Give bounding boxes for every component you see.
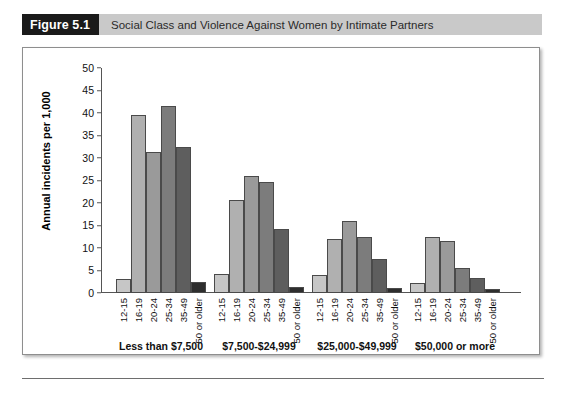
y-axis-title-text: Annual incidents per 1,000: [40, 91, 52, 230]
category-label-text: 16-19: [134, 298, 144, 322]
group-label: Less than $7,500: [119, 340, 203, 352]
bar[interactable]: [161, 106, 176, 293]
y-axis-tick-label: 50: [74, 63, 94, 74]
y-axis-tick: 40: [74, 108, 101, 119]
bar[interactable]: [116, 279, 131, 293]
bottom-rule: [22, 378, 544, 379]
bar[interactable]: [410, 283, 425, 293]
y-axis-tick-mark: [97, 113, 101, 114]
category-label-text: 20-24: [345, 298, 355, 322]
bar[interactable]: [259, 182, 274, 293]
category-label-text: 12-15: [119, 298, 129, 322]
y-axis-tick: 0: [74, 288, 101, 299]
category-label-text: 50 or older: [292, 298, 302, 343]
bar[interactable]: [455, 268, 470, 293]
bar[interactable]: [191, 282, 206, 293]
y-axis-tick-mark: [97, 203, 101, 204]
y-axis-tick: 50: [74, 63, 101, 74]
y-axis-tick-label: 45: [74, 85, 94, 96]
y-axis-tick-label: 0: [74, 288, 94, 299]
bar[interactable]: [214, 274, 229, 293]
bar[interactable]: [387, 288, 402, 293]
y-axis-tick-label: 30: [74, 153, 94, 164]
bar[interactable]: [146, 152, 161, 293]
y-axis-tick-label: 15: [74, 220, 94, 231]
bar[interactable]: [357, 237, 372, 293]
y-axis-tick-label: 35: [74, 130, 94, 141]
bar[interactable]: [342, 221, 357, 293]
y-axis-tick-label: 25: [74, 175, 94, 186]
bar[interactable]: [244, 176, 259, 293]
category-label-text: 25-34: [262, 298, 272, 322]
y-axis-tick: 35: [74, 130, 101, 141]
category-label-text: 25-34: [360, 298, 370, 322]
bar-group: [312, 68, 402, 293]
bar[interactable]: [229, 200, 244, 293]
y-axis-tick: 10: [74, 243, 101, 254]
bar[interactable]: [327, 239, 342, 293]
group-label: $25,000-$49,999: [317, 340, 396, 352]
y-axis-tick: 15: [74, 220, 101, 231]
y-axis-tick-mark: [97, 68, 101, 69]
category-label-text: 35-49: [277, 298, 287, 322]
bar-group: [214, 68, 304, 293]
y-axis-tick-mark: [97, 135, 101, 136]
bar[interactable]: [470, 278, 485, 293]
category-label-text: 35-49: [473, 298, 483, 322]
y-axis-tick-mark: [97, 248, 101, 249]
y-axis-tick-mark: [97, 225, 101, 226]
category-label-text: 20-24: [247, 298, 257, 322]
category-label-text: 25-34: [164, 298, 174, 322]
bar-group: [116, 68, 206, 293]
y-axis-tick-mark: [97, 270, 101, 271]
bar[interactable]: [289, 287, 304, 293]
y-axis-tick-mark: [97, 293, 101, 294]
category-label-text: 35-49: [375, 298, 385, 322]
y-axis-tick-label: 20: [74, 198, 94, 209]
bar[interactable]: [372, 259, 387, 293]
group-label: $7,500-$24,999: [222, 340, 296, 352]
group-label: $50,000 or more: [415, 340, 495, 352]
y-axis-tick-mark: [97, 180, 101, 181]
y-axis-tick: 30: [74, 153, 101, 164]
bars-layer: [102, 68, 521, 293]
bar-group: [410, 68, 500, 293]
category-label-text: 12-15: [217, 298, 227, 322]
category-label-text: 25-34: [458, 298, 468, 322]
category-label-text: 12-15: [315, 298, 325, 322]
y-axis-tick-label: 5: [74, 265, 94, 276]
chart-panel: Annual incidents per 1,000 0510152025303…: [22, 47, 540, 355]
plot-area: 05101520253035404550: [101, 68, 521, 293]
category-label-text: 35-49: [179, 298, 189, 322]
category-label-text: 12-15: [413, 298, 423, 322]
y-axis-tick: 45: [74, 85, 101, 96]
y-axis-title: Annual incidents per 1,000: [39, 48, 53, 273]
category-label-text: 50 or older: [194, 298, 204, 343]
bar[interactable]: [485, 289, 500, 294]
category-label-text: 50 or older: [488, 298, 498, 343]
bar[interactable]: [312, 275, 327, 293]
y-axis-tick-label: 10: [74, 243, 94, 254]
category-label-text: 16-19: [428, 298, 438, 322]
y-axis-tick-mark: [97, 158, 101, 159]
bar[interactable]: [425, 237, 440, 293]
y-axis-tick: 25: [74, 175, 101, 186]
y-axis-tick: 20: [74, 198, 101, 209]
category-label-text: 16-19: [232, 298, 242, 322]
category-label-text: 20-24: [443, 298, 453, 322]
figure-header: Figure 5.1 Social Class and Violence Aga…: [22, 14, 542, 35]
bar[interactable]: [131, 115, 146, 293]
y-axis-tick: 5: [74, 265, 101, 276]
figure-title: Social Class and Violence Against Women …: [99, 14, 433, 35]
category-label-text: 50 or older: [390, 298, 400, 343]
category-label-text: 20-24: [149, 298, 159, 322]
figure-number-badge: Figure 5.1: [22, 14, 99, 35]
y-axis-tick-mark: [97, 90, 101, 91]
bar[interactable]: [440, 241, 455, 293]
category-label-text: 16-19: [330, 298, 340, 322]
bar[interactable]: [274, 229, 289, 293]
y-axis-tick-label: 40: [74, 108, 94, 119]
bar[interactable]: [176, 147, 191, 293]
